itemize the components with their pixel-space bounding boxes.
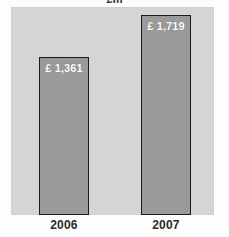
bar-2007[interactable]: £ 1,719 (141, 15, 191, 215)
category-label-2007: 2007 (136, 218, 196, 232)
bar-value-label-2006: £ 1,361 (40, 62, 88, 74)
bar-value-label-2007: £ 1,719 (142, 20, 190, 32)
plot-area: £ 1,361 £ 1,719 (11, 7, 214, 215)
chart-title: £m (0, 0, 229, 5)
bar-2006[interactable]: £ 1,361 (39, 57, 89, 215)
category-label-2006: 2006 (34, 218, 94, 232)
bar-chart-figure: £m £ 1,361 £ 1,719 2006 2007 (0, 0, 229, 237)
